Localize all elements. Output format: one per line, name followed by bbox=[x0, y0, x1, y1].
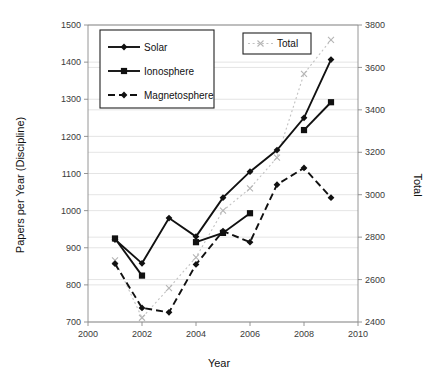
tick-label-right: 3000 bbox=[365, 190, 385, 200]
data-point bbox=[301, 71, 307, 77]
tick-label-right: 3200 bbox=[365, 147, 385, 157]
tick-label-x: 2004 bbox=[186, 329, 206, 339]
tick-label-left: 700 bbox=[66, 317, 81, 327]
tick-label-x: 2008 bbox=[294, 329, 314, 339]
y-axis-title-left: Papers per Year (Discipline) bbox=[14, 117, 26, 253]
tick-label-right: 2600 bbox=[365, 275, 385, 285]
right-axis-ticks: 24002600280030003200340036003800 bbox=[358, 20, 385, 327]
tick-label-left: 1400 bbox=[61, 57, 81, 67]
chart-container: 700800900100011001200130014001500 240026… bbox=[0, 0, 438, 389]
left-axis-ticks: 700800900100011001200130014001500 bbox=[61, 20, 88, 327]
data-point bbox=[328, 99, 334, 105]
legend-label: Solar bbox=[144, 42, 168, 53]
tick-label-left: 1200 bbox=[61, 132, 81, 142]
data-point bbox=[193, 254, 199, 260]
data-point bbox=[301, 127, 307, 133]
line-chart: 700800900100011001200130014001500 240026… bbox=[0, 0, 438, 389]
tick-label-left: 1100 bbox=[62, 169, 81, 179]
legend-label: Total bbox=[277, 38, 298, 49]
y-axis-title-right: Total bbox=[412, 173, 424, 196]
tick-label-x: 2010 bbox=[348, 329, 368, 339]
tick-label-right: 3800 bbox=[365, 20, 385, 30]
tick-label-right: 2800 bbox=[365, 232, 385, 242]
tick-label-x: 2006 bbox=[240, 329, 260, 339]
legend-label: Magnetosphere bbox=[144, 90, 214, 101]
data-point bbox=[247, 185, 253, 191]
legend-label: Ionosphere bbox=[144, 66, 194, 77]
data-point bbox=[247, 239, 254, 246]
data-point bbox=[139, 315, 145, 321]
tick-label-right: 3400 bbox=[365, 105, 385, 115]
series-magnetosphere bbox=[112, 165, 335, 316]
tick-label-x: 2000 bbox=[78, 329, 98, 339]
data-point bbox=[166, 285, 172, 291]
data-point bbox=[274, 155, 280, 161]
legend-total[interactable]: Total bbox=[243, 33, 311, 54]
tick-label-left: 1500 bbox=[61, 20, 81, 30]
legend-main[interactable]: SolarIonosphereMagnetosphere bbox=[100, 30, 214, 108]
data-point bbox=[193, 239, 199, 245]
data-point bbox=[112, 235, 118, 241]
series-line bbox=[115, 168, 331, 312]
tick-label-right: 3600 bbox=[365, 63, 385, 73]
x-axis-ticks: 200020022004200620082010 bbox=[78, 322, 368, 339]
tick-label-x: 2002 bbox=[132, 329, 152, 339]
series-line bbox=[304, 102, 331, 130]
data-point bbox=[139, 272, 145, 278]
tick-label-left: 800 bbox=[66, 280, 81, 290]
x-axis-title: Year bbox=[208, 357, 231, 369]
tick-label-right: 2400 bbox=[365, 317, 385, 327]
data-point bbox=[328, 194, 335, 201]
series-ionosphere bbox=[112, 99, 334, 279]
data-point bbox=[247, 210, 253, 216]
tick-label-left: 900 bbox=[66, 243, 81, 253]
tick-label-left: 1300 bbox=[61, 94, 81, 104]
data-point bbox=[328, 37, 334, 43]
legend-marker bbox=[121, 68, 127, 74]
data-point bbox=[274, 181, 281, 188]
tick-label-left: 1000 bbox=[61, 206, 81, 216]
